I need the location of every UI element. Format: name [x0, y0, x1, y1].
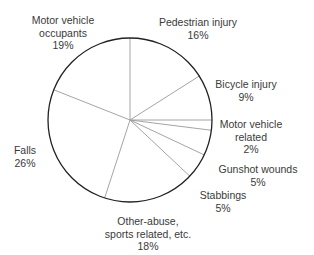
slice-divider-7 — [105, 120, 130, 198]
label-text: Pedestrian injury — [159, 16, 237, 29]
label-percent: 5% — [219, 176, 298, 189]
label-percent: 9% — [215, 91, 276, 104]
label-text: Stabbings — [200, 189, 247, 202]
label-text: Other-abuse, — [105, 215, 191, 228]
label-pedestrian-injury: Pedestrian injury16% — [159, 16, 237, 41]
label-text: occupants — [32, 27, 94, 40]
label-percent: 26% — [14, 157, 36, 170]
label-other-abuse: Other-abuse,sports related, etc.18% — [105, 215, 191, 253]
label-gunshot-wounds: Gunshot wounds5% — [219, 163, 298, 188]
label-percent: 16% — [159, 29, 237, 42]
label-text: related — [220, 131, 282, 144]
label-bicycle-injury: Bicycle injury9% — [215, 78, 276, 103]
slice-divider-2 — [130, 76, 199, 120]
label-text: Bicycle injury — [215, 78, 276, 91]
label-text: Motor vehicle — [220, 118, 282, 131]
label-stabbings: Stabbings5% — [200, 189, 247, 214]
label-percent: 19% — [32, 39, 94, 52]
label-percent: 18% — [105, 240, 191, 253]
label-text: Falls — [14, 144, 36, 157]
label-percent: 5% — [200, 202, 247, 215]
label-text: Gunshot wounds — [219, 163, 298, 176]
label-percent: 2% — [220, 143, 282, 156]
label-falls: Falls26% — [14, 144, 36, 169]
label-text: Motor vehicle — [32, 14, 94, 27]
label-motor-vehicle-occupants: Motor vehicleoccupants19% — [32, 14, 94, 52]
label-motor-vehicle-related: Motor vehiclerelated2% — [220, 118, 282, 156]
slice-divider-5 — [130, 120, 204, 155]
slice-divider-8 — [54, 90, 130, 120]
slice-divider-4 — [130, 120, 211, 130]
slice-divider-6 — [130, 120, 190, 176]
label-text: sports related, etc. — [105, 228, 191, 241]
